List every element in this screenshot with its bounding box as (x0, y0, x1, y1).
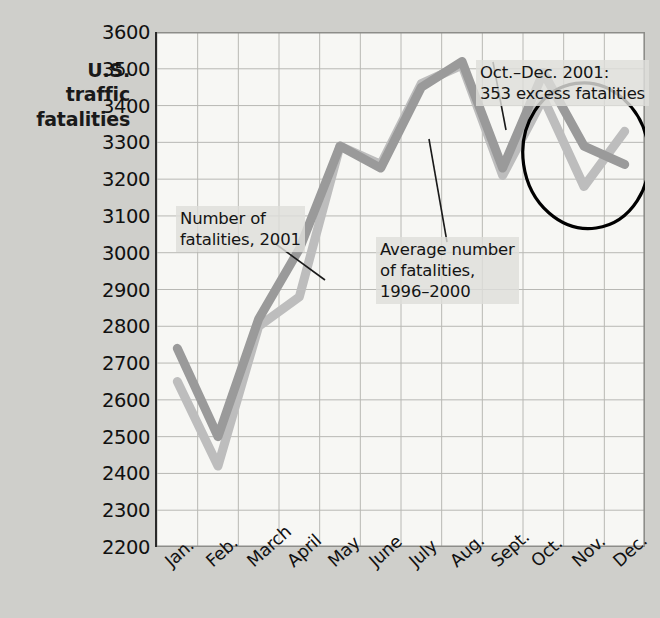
y-axis-tick-label: 3200 (92, 168, 150, 191)
y-axis-tick-label: 2800 (92, 315, 150, 338)
y-axis-tick-label: 3100 (92, 204, 150, 227)
y-axis-tick-label: 3500 (92, 57, 150, 80)
leader-line-series-average (429, 139, 447, 242)
chart-figure: U.S.trafficfatalities 360035003400330032… (0, 0, 660, 618)
annotation-series-2001: Number of fatalities, 2001 (176, 206, 305, 252)
annotation-excess-fatalities: Oct.–Dec. 2001: 353 excess fatalities (476, 60, 649, 106)
y-axis-tick-label: 3400 (92, 94, 150, 117)
y-axis-tick-label: 2700 (92, 352, 150, 375)
y-axis-tick-label: 3000 (92, 241, 150, 264)
y-axis-tick-label: 2300 (92, 499, 150, 522)
y-axis-tick-label: 2500 (92, 425, 150, 448)
y-axis-tick-label: 2400 (92, 462, 150, 485)
y-axis-tick-labels: 3600350034003300320031003000290028002700… (92, 0, 150, 618)
y-axis-tick-label: 2900 (92, 278, 150, 301)
y-axis-tick-label: 3300 (92, 131, 150, 154)
y-axis-tick-label: 2200 (92, 536, 150, 559)
annotation-series-average: Average number of fatalities, 1996–2000 (376, 237, 519, 304)
y-axis-tick-label: 3600 (92, 21, 150, 44)
y-axis-tick-label: 2600 (92, 388, 150, 411)
